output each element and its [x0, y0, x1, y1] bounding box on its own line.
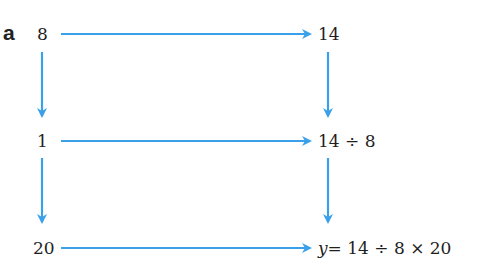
arrows-layer — [0, 0, 477, 273]
ratio-table-diagram: a 8 1 20 14 14 ÷ 8 y= 14 ÷ 8 × 20 — [0, 0, 477, 273]
